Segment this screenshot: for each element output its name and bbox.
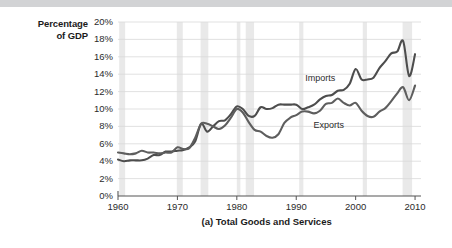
y-axis-tick-label: 8% <box>89 121 113 131</box>
y-axis-tick-label: 10% <box>89 104 113 114</box>
y-axis-tick-label: 12% <box>89 87 113 97</box>
y-axis-tick-label: 6% <box>89 139 113 149</box>
y-axis-tick-label: 14% <box>89 69 113 79</box>
y-axis-tick-label: 0% <box>89 191 113 201</box>
y-axis-tick-label: 2% <box>89 174 113 184</box>
series-label-imports: Imports <box>305 73 335 83</box>
x-axis-tick-label: 2010 <box>395 202 435 212</box>
series-line-imports <box>118 40 415 161</box>
y-axis-title-line1: Percentage <box>22 18 88 30</box>
x-axis-tick-label: 1990 <box>276 202 316 212</box>
y-axis-tick-label: 20% <box>89 17 113 27</box>
x-axis-tick-label: 1970 <box>157 202 197 212</box>
x-axis-tick-label: 2000 <box>336 202 376 212</box>
y-axis-tick-label: 18% <box>89 34 113 44</box>
series-label-exports: Exports <box>313 120 344 130</box>
figure-caption: (a) Total Goods and Services <box>202 216 332 227</box>
y-axis-title: Percentage of GDP <box>22 18 88 41</box>
y-axis-title-line2: of GDP <box>22 30 88 42</box>
x-axis-tick-label: 1960 <box>98 202 138 212</box>
y-axis-tick-label: 16% <box>89 52 113 62</box>
x-axis-tick-label: 1980 <box>217 202 257 212</box>
chart-figure: Percentage of GDP 0%2%4%6%8%10%12%14%16%… <box>0 0 452 248</box>
y-axis-tick-label: 4% <box>89 156 113 166</box>
